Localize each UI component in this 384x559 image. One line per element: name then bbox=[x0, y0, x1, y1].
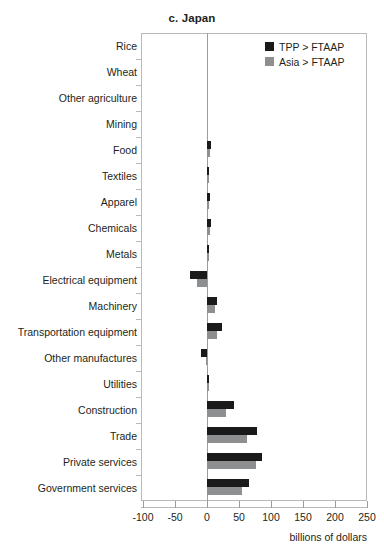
category-label: Food bbox=[0, 145, 137, 156]
bar-tpp bbox=[207, 453, 262, 461]
bar-tpp bbox=[207, 297, 217, 305]
category-tick bbox=[136, 475, 141, 476]
category-tick bbox=[136, 59, 141, 60]
legend-item-asia: Asia > FTAAP bbox=[265, 55, 344, 68]
x-axis-title: billions of dollars bbox=[289, 531, 367, 543]
bar-asia bbox=[207, 201, 209, 209]
category-label: Rice bbox=[0, 41, 137, 52]
category-label: Apparel bbox=[0, 197, 137, 208]
category-label: Transportation equipment bbox=[0, 327, 137, 338]
category-tick bbox=[136, 371, 141, 372]
category-tick bbox=[136, 189, 141, 190]
bar-asia bbox=[207, 409, 226, 417]
category-label: Mining bbox=[0, 119, 137, 130]
category-label: Construction bbox=[0, 405, 137, 416]
bar-asia bbox=[207, 175, 209, 183]
bar-tpp bbox=[207, 323, 222, 331]
x-axis-tick-label: -100 bbox=[132, 511, 153, 523]
category-label: Wheat bbox=[0, 67, 137, 78]
x-axis-tick-label: 150 bbox=[294, 511, 312, 523]
bar-asia bbox=[207, 461, 256, 469]
legend-swatch-icon-asia bbox=[265, 57, 274, 66]
bar-tpp bbox=[207, 193, 210, 201]
bar-tpp bbox=[207, 245, 209, 253]
bar-asia bbox=[206, 357, 208, 365]
bar-asia bbox=[207, 383, 209, 391]
category-label: Utilities bbox=[0, 379, 137, 390]
x-axis-tick bbox=[207, 501, 208, 508]
legend-swatch-icon-tpp bbox=[265, 42, 274, 51]
category-tick bbox=[136, 319, 141, 320]
bar-asia bbox=[207, 487, 242, 495]
x-axis-tick bbox=[335, 501, 336, 508]
category-tick bbox=[136, 215, 141, 216]
category-tick bbox=[136, 111, 141, 112]
x-axis-tick bbox=[143, 501, 144, 508]
category-label: Machinery bbox=[0, 301, 137, 312]
bar-tpp bbox=[207, 479, 249, 487]
chart-legend: TPP > FTAAP Asia > FTAAP bbox=[265, 40, 344, 70]
bar-tpp bbox=[201, 349, 207, 357]
category-tick bbox=[136, 345, 141, 346]
bar-tpp bbox=[207, 219, 211, 227]
bars-layer bbox=[142, 34, 366, 500]
legend-label-tpp: TPP > FTAAP bbox=[279, 41, 344, 53]
x-axis-tick bbox=[239, 501, 240, 508]
legend-label-asia: Asia > FTAAP bbox=[279, 56, 344, 68]
x-axis-tick-label: 200 bbox=[326, 511, 344, 523]
bar-tpp bbox=[190, 271, 207, 279]
x-axis-tick bbox=[303, 501, 304, 508]
x-axis-tick-label: 250 bbox=[358, 511, 376, 523]
category-label: Electrical equipment bbox=[0, 275, 137, 286]
category-label: Textiles bbox=[0, 171, 137, 182]
bar-asia bbox=[207, 253, 209, 261]
bar-asia bbox=[207, 227, 210, 235]
category-tick bbox=[136, 267, 141, 268]
x-axis-tick bbox=[175, 501, 176, 508]
category-tick bbox=[136, 293, 141, 294]
chart-container: c. Japan RiceWheatOther agricultureMinin… bbox=[0, 0, 384, 559]
bar-asia bbox=[207, 331, 217, 339]
bar-asia bbox=[207, 435, 247, 443]
bar-tpp bbox=[207, 375, 209, 383]
bar-asia bbox=[207, 149, 210, 157]
bar-asia bbox=[197, 279, 207, 287]
category-label: Government services bbox=[0, 483, 137, 494]
category-tick bbox=[136, 397, 141, 398]
x-axis-tick-label: 0 bbox=[204, 511, 210, 523]
category-tick bbox=[136, 241, 141, 242]
category-tick bbox=[136, 85, 141, 86]
bar-tpp bbox=[207, 427, 257, 435]
category-tick bbox=[136, 163, 141, 164]
category-label: Other agriculture bbox=[0, 93, 137, 104]
bar-tpp bbox=[207, 401, 234, 409]
x-axis-tick bbox=[367, 501, 368, 508]
category-label: Chemicals bbox=[0, 223, 137, 234]
category-tick bbox=[136, 137, 141, 138]
chart-title: c. Japan bbox=[0, 12, 384, 24]
x-axis-tick-label: 100 bbox=[262, 511, 280, 523]
bar-tpp bbox=[207, 167, 209, 175]
bar-asia bbox=[207, 305, 215, 313]
bar-tpp bbox=[207, 141, 211, 149]
category-label: Private services bbox=[0, 457, 137, 468]
x-axis-tick bbox=[271, 501, 272, 508]
category-label: Metals bbox=[0, 249, 137, 260]
category-label: Other manufactures bbox=[0, 353, 137, 364]
category-tick bbox=[136, 423, 141, 424]
x-axis-tick-label: 50 bbox=[233, 511, 245, 523]
category-tick bbox=[136, 449, 141, 450]
x-axis-tick-label: -50 bbox=[167, 511, 182, 523]
legend-item-tpp: TPP > FTAAP bbox=[265, 40, 344, 53]
category-axis-labels: RiceWheatOther agricultureMiningFoodText… bbox=[0, 33, 137, 501]
category-label: Trade bbox=[0, 431, 137, 442]
